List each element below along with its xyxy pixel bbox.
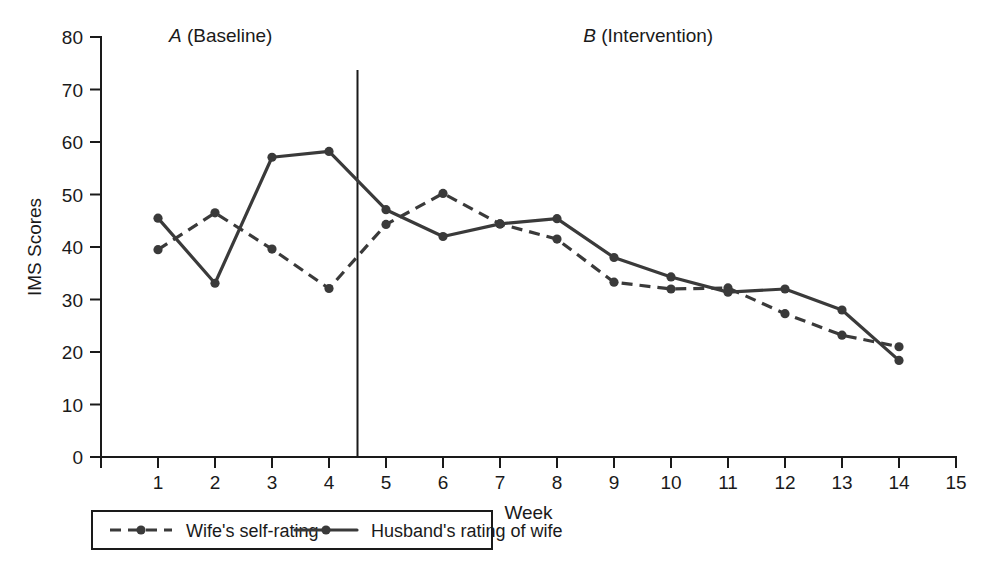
data-point-marker: [153, 245, 162, 254]
y-tick-label: 10: [62, 395, 83, 416]
data-point-marker: [438, 232, 447, 241]
y-axis-title: IMS Scores: [24, 198, 45, 296]
legend-sample-marker: [321, 525, 330, 534]
series-line: [158, 151, 899, 360]
x-tick-label: 13: [831, 472, 852, 493]
x-axis-title: Week: [504, 502, 553, 523]
data-point-marker: [666, 284, 675, 293]
x-tick-label: 1: [153, 472, 164, 493]
x-tick-label: 3: [267, 472, 278, 493]
y-tick-label: 80: [62, 27, 83, 48]
x-tick-label: 4: [324, 472, 335, 493]
data-point-marker: [381, 220, 390, 229]
data-point-marker: [153, 214, 162, 223]
data-point-marker: [210, 279, 219, 288]
y-tick-label: 30: [62, 290, 83, 311]
chart-canvas: 01020304050607080 123456789101112131415 …: [0, 0, 993, 571]
x-tick-label: 9: [609, 472, 620, 493]
y-tick-label: 50: [62, 185, 83, 206]
x-axis-ticks: 123456789101112131415: [101, 457, 967, 493]
y-tick-label: 20: [62, 342, 83, 363]
series-line: [158, 193, 899, 346]
x-tick-label: 5: [381, 472, 392, 493]
data-point-marker: [552, 214, 561, 223]
data-point-marker: [324, 147, 333, 156]
data-point-marker: [780, 309, 789, 318]
data-point-marker: [267, 153, 276, 162]
data-point-marker: [324, 284, 333, 293]
legend-label: Husband's rating of wife: [371, 521, 563, 541]
y-tick-label: 0: [72, 447, 83, 468]
data-point-marker: [666, 272, 675, 281]
x-tick-label: 10: [660, 472, 681, 493]
data-point-marker: [267, 245, 276, 254]
data-point-marker: [381, 205, 390, 214]
data-point-marker: [894, 342, 903, 351]
legend-sample-marker: [136, 525, 145, 534]
x-tick-label: 8: [552, 472, 563, 493]
data-point-marker: [780, 284, 789, 293]
phase-label-intervention: B (Intervention): [583, 25, 713, 46]
data-point-marker: [723, 288, 732, 297]
x-tick-label: 7: [495, 472, 506, 493]
phase-label-baseline: A (Baseline): [168, 25, 273, 46]
x-tick-label: 6: [438, 472, 449, 493]
data-point-marker: [495, 219, 504, 228]
series-wife-self-rating: [153, 189, 903, 352]
data-point-marker: [894, 356, 903, 365]
legend: Wife's self-ratingHusband's rating of wi…: [92, 511, 563, 549]
x-tick-label: 11: [718, 472, 738, 493]
data-point-marker: [552, 235, 561, 244]
axes-group: [101, 37, 956, 457]
data-point-marker: [210, 208, 219, 217]
y-tick-label: 60: [62, 132, 83, 153]
chart-figure: 01020304050607080 123456789101112131415 …: [0, 0, 993, 571]
x-tick-label: 14: [888, 472, 910, 493]
data-point-marker: [609, 278, 618, 287]
x-tick-label: 2: [210, 472, 221, 493]
data-point-marker: [837, 331, 846, 340]
y-axis-ticks: 01020304050607080: [62, 27, 101, 468]
series-husband-rating-of-wife: [153, 147, 903, 365]
data-point-marker: [837, 305, 846, 314]
y-tick-label: 70: [62, 80, 83, 101]
legend-entry: Husband's rating of wife: [295, 521, 563, 541]
data-point-marker: [438, 189, 447, 198]
data-point-marker: [609, 253, 618, 262]
y-tick-label: 40: [62, 237, 83, 258]
x-tick-label: 12: [774, 472, 795, 493]
x-tick-label: 15: [945, 472, 966, 493]
data-series-group: [153, 147, 903, 365]
legend-entry: Wife's self-rating: [110, 521, 318, 541]
